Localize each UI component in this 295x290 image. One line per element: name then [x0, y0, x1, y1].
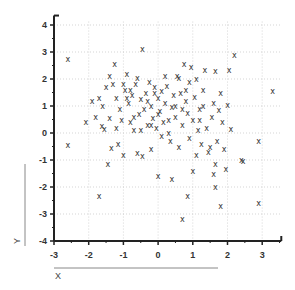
data-point: x	[173, 113, 178, 122]
data-point: x	[104, 83, 109, 92]
data-point: x	[210, 113, 215, 122]
data-point: x	[166, 116, 171, 125]
data-point: x	[213, 67, 218, 76]
data-point: x	[152, 89, 157, 98]
data-point: x	[112, 60, 117, 69]
data-point: x	[177, 143, 182, 152]
data-point: x	[156, 110, 161, 119]
data-point: x	[229, 125, 234, 134]
data-point: x	[197, 116, 202, 125]
data-point: x	[199, 140, 204, 149]
x-axis-title-group: X	[54, 268, 218, 281]
data-point: x	[109, 144, 114, 153]
y-tick-label: 4	[42, 20, 47, 30]
data-point: x	[180, 105, 185, 114]
data-point: x	[194, 75, 199, 84]
data-point: x	[97, 192, 102, 201]
scatter-chart: xxxxxxxxxxxxxxxxxxxxxxxxxxxxxxxxxxxxxxxx…	[0, 0, 295, 290]
data-point: x	[149, 145, 154, 154]
data-point: x	[149, 121, 154, 130]
data-point: x	[180, 215, 185, 224]
data-point: x	[190, 167, 195, 176]
data-point: x	[192, 93, 197, 102]
x-tick-label: 1	[190, 250, 195, 260]
y-tick-label: 2	[42, 74, 47, 84]
data-point: x	[125, 70, 130, 79]
y-tick-label: 3	[42, 47, 47, 57]
data-point: x	[213, 160, 218, 169]
x-tick-label: -2	[85, 250, 93, 260]
data-point: x	[213, 183, 218, 192]
data-point: x	[131, 113, 136, 122]
data-point: x	[223, 165, 228, 174]
data-point: x	[145, 97, 150, 106]
data-point: x	[100, 102, 105, 111]
data-point: x	[182, 60, 187, 69]
data-point: x	[125, 94, 130, 103]
data-point: x	[131, 126, 136, 135]
data-point: x	[270, 87, 275, 96]
data-point: x	[84, 118, 89, 127]
x-tick-label: 3	[260, 250, 265, 260]
x-tick-label: 2	[225, 250, 230, 260]
data-point: x	[114, 124, 119, 133]
data-point: x	[142, 105, 147, 114]
data-points: xxxxxxxxxxxxxxxxxxxxxxxxxxxxxxxxxxxxxxxx…	[66, 45, 276, 224]
data-point: x	[140, 45, 145, 54]
data-point: x	[93, 113, 98, 122]
y-tick-label: -4	[39, 236, 47, 246]
data-point: x	[201, 86, 206, 95]
y-tick-label: 1	[42, 101, 47, 111]
data-point: x	[66, 141, 71, 150]
data-point: x	[201, 102, 206, 111]
data-point: x	[227, 66, 232, 75]
y-tick-label: -3	[39, 209, 47, 219]
data-point: x	[194, 151, 199, 160]
y-tick-label: -1	[39, 155, 47, 165]
y-axis-title-group: Y	[12, 164, 25, 246]
data-point: x	[220, 118, 225, 127]
data-point: x	[211, 170, 216, 179]
data-point: x	[164, 82, 169, 91]
data-point: x	[116, 140, 121, 149]
data-point: x	[190, 116, 195, 125]
tick-labels: -4-3-2-101234-3-2-10123	[39, 20, 265, 260]
data-point: x	[121, 151, 126, 160]
data-point: x	[135, 74, 140, 83]
data-point: x	[256, 199, 261, 208]
data-point: x	[111, 80, 116, 89]
data-point: x	[66, 55, 71, 64]
y-tick-label: 0	[42, 128, 47, 138]
data-point: x	[185, 192, 190, 201]
data-point: x	[196, 126, 201, 135]
data-point: x	[171, 91, 176, 100]
data-point: x	[256, 137, 261, 146]
data-point: x	[177, 74, 182, 83]
data-point: x	[163, 72, 168, 81]
data-point: x	[187, 134, 192, 143]
x-axis-title: X	[55, 271, 61, 281]
data-point: x	[222, 145, 227, 154]
data-point: x	[159, 132, 164, 141]
data-point: x	[105, 160, 110, 169]
data-point: x	[239, 156, 244, 165]
data-point: x	[140, 152, 145, 161]
data-point: x	[138, 126, 143, 135]
data-point: x	[163, 99, 168, 108]
x-tick-label: 0	[156, 250, 161, 260]
data-point: x	[225, 101, 230, 110]
data-point: x	[218, 89, 223, 98]
data-point: x	[121, 80, 126, 89]
data-point: x	[102, 125, 107, 134]
data-point: x	[216, 106, 221, 115]
data-point: x	[114, 94, 119, 103]
y-axis-title: Y	[12, 238, 22, 244]
data-point: x	[215, 137, 220, 146]
data-point: x	[180, 121, 185, 130]
x-tick-label: -3	[50, 250, 58, 260]
data-point: x	[170, 175, 175, 184]
data-point: x	[156, 172, 161, 181]
data-point: x	[173, 102, 178, 111]
x-tick-label: -1	[119, 250, 127, 260]
data-point: x	[183, 86, 188, 95]
